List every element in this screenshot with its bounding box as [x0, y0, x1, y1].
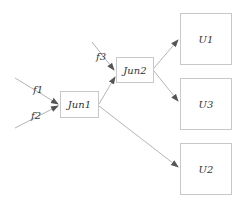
- node-u1-label: U1: [199, 34, 214, 45]
- input-label-f1: f1: [33, 84, 43, 95]
- node-u2: U2: [180, 143, 232, 195]
- input-label-f3: f3: [96, 51, 106, 62]
- node-jun1: Jun1: [60, 91, 99, 118]
- node-u1: U1: [180, 13, 232, 65]
- node-u3-label: U3: [199, 99, 214, 110]
- node-u2-label: U2: [199, 164, 214, 175]
- node-jun2-label: Jun2: [123, 65, 146, 76]
- edge-jun1-jun2: [99, 77, 115, 104]
- input-label-f2: f2: [31, 110, 41, 121]
- node-u3: U3: [180, 78, 232, 130]
- edge-jun2-u1: [154, 40, 178, 68]
- node-jun1-label: Jun1: [68, 99, 91, 110]
- node-jun2: Jun2: [116, 57, 154, 83]
- edge-jun2-u3: [154, 71, 178, 101]
- edge-jun1-u2: [99, 106, 178, 167]
